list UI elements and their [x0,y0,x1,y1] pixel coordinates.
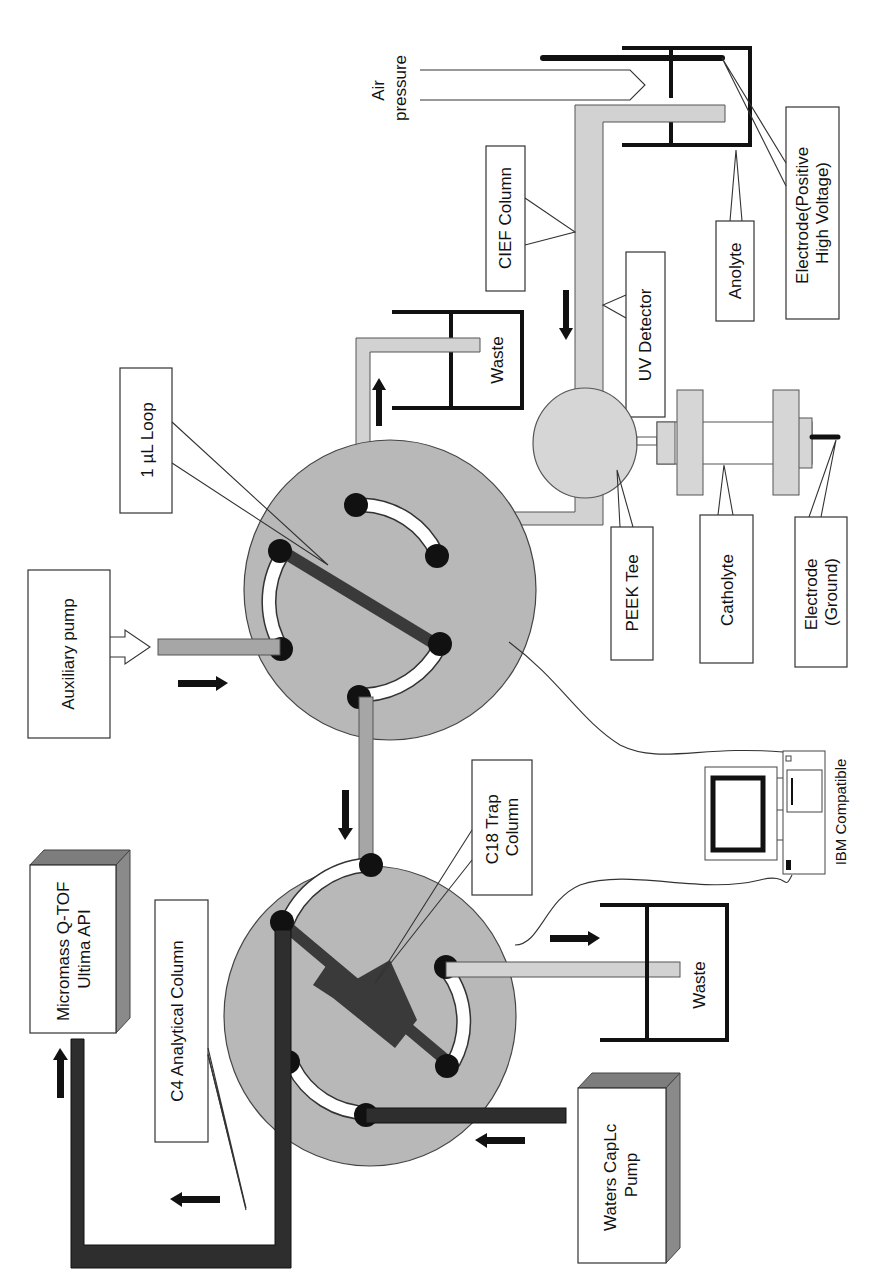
uv-detector-callout: UV Detector [603,252,665,417]
electrode-positive-label: Electrode(Positive High Voltage) [793,142,832,284]
auxiliary-pump-label: Auxiliary pump [59,598,78,710]
waters-pump-box: Waters CapLc Pump [578,1073,680,1263]
anolyte-callout: Anolyte [716,150,754,321]
flow-arrow-up-ms [53,1048,68,1098]
uv-detector-label: UV Detector [636,288,655,381]
flow-arrow-up-waste [372,378,386,426]
c4-column-label: C4 Analytical Column [168,940,187,1102]
ibm-compatible-label: IBM Compatible [832,759,849,866]
electrode-ground-label: Electrode (Ground) [802,554,841,631]
valve-transfer-tube [359,697,373,869]
anolyte-reservoir [543,48,750,145]
peek-tee [533,388,637,498]
waste-bottom-tube [446,962,680,977]
air-pressure-label: Air pressure [369,55,410,121]
flow-arrow-down-transfer [338,790,353,840]
catholyte-callout: Catholyte [700,465,753,663]
cief-column-callout: CIEF Column [486,146,575,291]
flow-arrow-down-cief [559,290,573,340]
waste-top-label: Waste [488,336,507,384]
cief-column-label: CIEF Column [496,167,515,269]
c18-trap-label: C18 Trap Column [483,790,522,865]
waters-pump-tube [366,1108,566,1123]
anolyte-label: Anolyte [726,243,745,300]
auxiliary-pump-callout: Auxiliary pump [28,570,150,738]
schematic-canvas: Air pressure CIEF Column UV Detector Ano… [0,0,870,1280]
auxiliary-pump-tube [158,639,280,655]
flow-arrow-left-c4 [170,1192,220,1207]
peek-tee-callout: PEEK Tee [611,470,653,660]
control-cable-trap-valve [515,875,792,945]
flow-arrow-left-waters [475,1133,525,1148]
ibm-computer-icon [705,751,825,874]
peek-tee-label: PEEK Tee [623,554,642,631]
injection-valve [244,440,536,740]
waste-bottom-label: Waste [690,961,709,1009]
flow-arrow-right-aux [178,676,228,691]
catholyte-reservoir [637,390,838,495]
micromass-box: Micromass Q-TOF Ultima API [30,850,130,1033]
catholyte-label: Catholyte [718,554,737,626]
loop-label: 1 µL Loop [138,402,157,477]
flow-arrow-right-waste [550,931,600,946]
reservoir-outline [622,48,750,145]
electrode-ground-callout: Electrode (Ground) [795,440,847,667]
air-pressure-arrow-icon [420,70,645,100]
